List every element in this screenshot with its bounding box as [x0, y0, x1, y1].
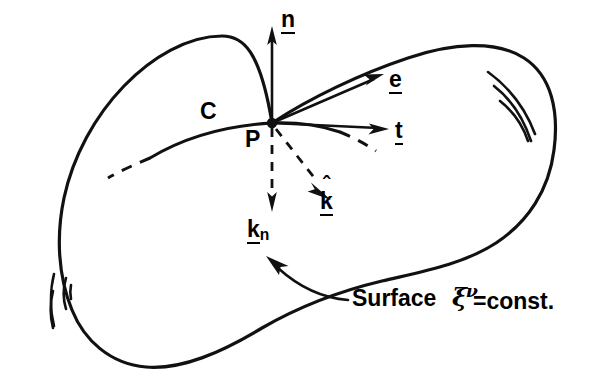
surface-diagram-svg — [0, 0, 594, 386]
label-tangent-vector-t: t — [395, 119, 403, 145]
label-c-text: C — [200, 98, 217, 124]
label-xi-symbol: ξ — [452, 283, 467, 312]
hat-accent-icon: ˆ — [323, 174, 330, 196]
label-surface-text: Surface — [352, 285, 436, 311]
label-p-text: P — [245, 126, 260, 152]
label-equals-const: =const. — [473, 290, 554, 313]
label-normal-curvature-kn: kn — [247, 218, 269, 244]
surface-blob-outline — [59, 36, 555, 367]
label-point-p: P — [245, 128, 260, 151]
point-p-marker — [267, 118, 277, 128]
label-kn-subscript: n — [260, 226, 270, 243]
vector-e — [272, 74, 384, 123]
shading-upper-right — [488, 72, 535, 141]
label-t-text: t — [395, 119, 403, 145]
label-curve-c: C — [200, 100, 217, 123]
label-khat-wrap: ˆk — [320, 190, 333, 216]
vector-k-n — [267, 128, 277, 212]
label-kn-base: k — [247, 218, 260, 244]
label-eq-text: =const. — [473, 288, 554, 314]
curve-c-dashed-left — [108, 158, 150, 178]
figure-canvas: n e t C P kn ˆk Surface ξν =const. — [0, 0, 594, 386]
label-e-vector: e — [389, 68, 402, 94]
label-normal-vector-n: n — [281, 8, 295, 34]
curve-c-dashed-right — [340, 132, 376, 151]
label-curvature-vector-k-hat: ˆk — [320, 190, 333, 216]
label-n-text: n — [281, 8, 295, 34]
label-surface-word: Surface — [352, 287, 436, 310]
label-e-text: e — [389, 68, 402, 94]
